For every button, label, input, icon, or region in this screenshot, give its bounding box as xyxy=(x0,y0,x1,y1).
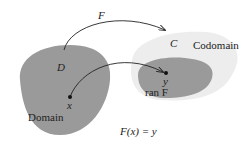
equation-label: F(x) = y xyxy=(120,126,157,137)
domain-set-label: D xyxy=(57,62,65,73)
domain-label: Domain xyxy=(28,112,63,123)
codomain-label: Codomain xyxy=(193,40,239,51)
F-arrow-label: F xyxy=(98,10,105,21)
x-label: x xyxy=(67,100,72,111)
codomain-set-label: C xyxy=(170,38,177,49)
range-label: ran F xyxy=(145,87,168,98)
